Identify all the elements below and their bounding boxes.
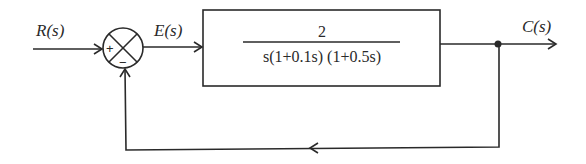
error-label: E(s): [153, 21, 183, 40]
minus-sign: −: [119, 55, 127, 70]
takeoff-point: [495, 41, 502, 48]
tf-denominator: s(1+0.1s) (1+0.5s): [263, 48, 381, 66]
input-label: R(s): [35, 21, 65, 40]
summing-junction: + −: [103, 28, 143, 70]
block-diagram: R(s) + − E(s) 2 s(1+0.1s) (1+0.5s) C(s): [0, 0, 586, 164]
error-signal-line: [143, 42, 202, 52]
plus-sign: +: [106, 41, 114, 56]
tf-numerator: 2: [318, 23, 326, 40]
input-signal-line: [33, 44, 102, 54]
transfer-function-block: 2 s(1+0.1s) (1+0.5s): [203, 10, 440, 86]
output-label: C(s): [522, 17, 552, 36]
output-signal-line: [440, 39, 556, 49]
